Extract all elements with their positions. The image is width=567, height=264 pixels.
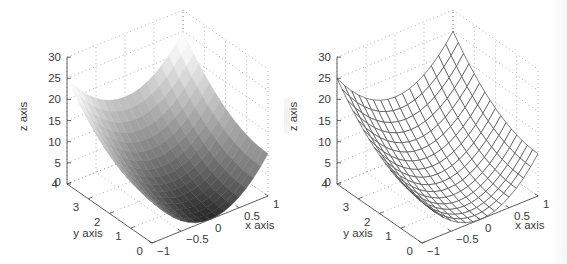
z-tick-label: 20 <box>48 93 61 105</box>
right-wireframe-plot: z axis y axis x axis 05101520253001234−1… <box>287 10 549 257</box>
y-tick-label: 0 <box>137 245 143 257</box>
z-tick-label: 30 <box>48 51 61 63</box>
shaded-surface <box>67 31 268 222</box>
x-tick-label: 1 <box>543 198 549 210</box>
z-tick-label: 15 <box>48 115 61 127</box>
x-tick-label: 0.5 <box>244 210 260 222</box>
z-tick-label: 20 <box>318 93 331 105</box>
z-tick-label: 10 <box>318 136 331 148</box>
y-axis-label: y axis <box>73 227 103 239</box>
y-tick-label: 4 <box>52 178 59 190</box>
wireframe-mesh <box>337 31 538 222</box>
x-tick-label: −0.5 <box>186 233 209 245</box>
y-tick-label: 3 <box>343 201 349 213</box>
y-tick-label: 1 <box>115 230 121 242</box>
x-tick-label: −1 <box>157 245 170 257</box>
x-tick-label: 0.5 <box>514 210 530 222</box>
y-tick-label: 4 <box>322 178 329 190</box>
x-tick-label: 1 <box>273 198 279 210</box>
y-tick-label: 0 <box>407 245 413 257</box>
z-tick-label: 5 <box>55 157 61 169</box>
page-edge-shadow <box>553 0 567 264</box>
x-tick-label: −1 <box>427 245 440 257</box>
z-tick-label: 30 <box>318 51 331 63</box>
y-tick-label: 3 <box>73 201 79 213</box>
z-tick-label: 25 <box>48 72 61 84</box>
y-tick-label: 2 <box>364 216 370 228</box>
x-tick-label: 0 <box>215 222 221 234</box>
z-tick-label: 15 <box>318 115 331 127</box>
z-tick-label: 25 <box>318 72 331 84</box>
x-tick-label: −0.5 <box>456 233 479 245</box>
left-surface-plot: z axis y axis x axis 05101520253001234−1… <box>17 10 279 257</box>
z-axis-label: z axis <box>17 102 29 132</box>
y-axis-label: y axis <box>343 227 373 239</box>
y-tick-label: 1 <box>385 230 391 242</box>
z-tick-label: 5 <box>325 157 331 169</box>
y-tick-label: 2 <box>94 216 100 228</box>
z-tick-label: 10 <box>48 136 61 148</box>
scan-artifact <box>284 98 290 134</box>
x-tick-label: 0 <box>485 222 491 234</box>
